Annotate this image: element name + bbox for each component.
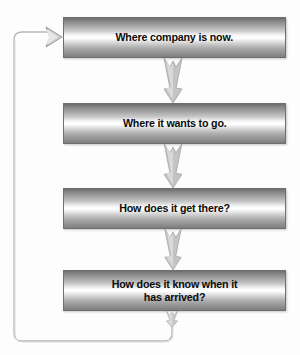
down-arrow-4	[162, 311, 182, 328]
process-box-3[interactable]: How does it get there?	[63, 188, 286, 229]
down-arrow-3	[162, 229, 184, 271]
process-box-4[interactable]: How does it know when it has arrived?	[63, 270, 286, 311]
feedback-loop-arrowhead	[46, 27, 62, 47]
down-arrow-1	[162, 58, 184, 104]
process-box-3-label: How does it get there?	[119, 202, 230, 215]
process-box-2[interactable]: Where it wants to go.	[63, 103, 286, 144]
process-box-1-label: Where company is now.	[116, 31, 234, 44]
flowchart-canvas: Where company is now. Where it wants to …	[0, 0, 300, 355]
process-box-4-label: How does it know when it has arrived?	[112, 278, 238, 303]
process-box-1[interactable]: Where company is now.	[63, 17, 286, 58]
process-box-2-label: Where it wants to go.	[123, 117, 227, 130]
down-arrow-2	[162, 144, 184, 189]
